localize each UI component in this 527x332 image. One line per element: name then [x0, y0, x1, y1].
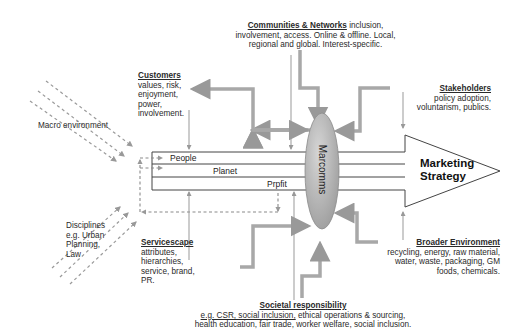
band-planet: Planet	[213, 166, 237, 176]
communities-networks-label: Communities & Networks inclusion, involv…	[228, 21, 403, 50]
broader-environment-label: Broader Environment recycling, energy, r…	[368, 238, 500, 276]
macro-environment-label: Macro environment	[38, 121, 108, 131]
servicescape-label: Servicescape attributes, hierarchies, se…	[141, 238, 221, 286]
marketing-strategy-label: Marketing Strategy	[420, 157, 474, 183]
societal-responsibility-label: Societal responsibility e.g. CSR, social…	[178, 301, 428, 330]
marcomms-label: Marcomms	[317, 143, 328, 197]
stakeholders-label: Stakeholders policy adoption, voluntaris…	[398, 84, 491, 113]
band-people: People	[170, 153, 196, 163]
band-profit: Prpfit	[267, 179, 287, 189]
customers-label: Customers values, risk, enjoyment, power…	[138, 71, 218, 119]
disciplines-label: Disciplines e.g. Urban Planning, Law	[66, 221, 105, 259]
